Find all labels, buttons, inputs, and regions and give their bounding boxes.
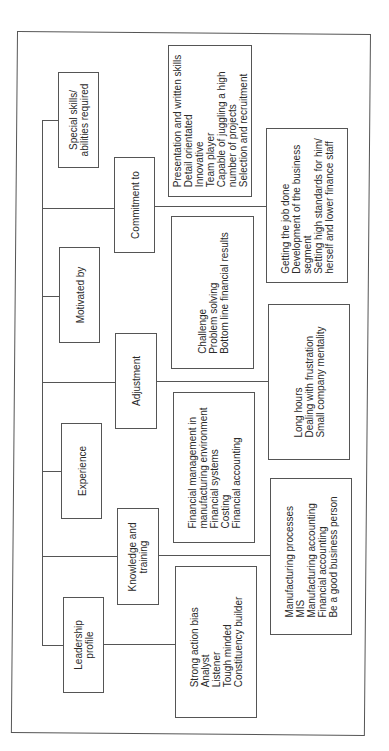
item: Problem solving — [207, 232, 218, 354]
item: Team player — [205, 55, 216, 187]
label-line: Experience — [76, 446, 87, 496]
label-line: abilities required — [79, 84, 90, 157]
item: Setting high standards for him/ — [313, 138, 324, 274]
label-line: Knowledge and — [127, 522, 138, 591]
category-experience: Experience — [61, 423, 102, 519]
label-line: Adjustment — [131, 356, 142, 406]
connector-special — [42, 120, 58, 121]
category-special-skills: Special skills/ abilities required — [58, 72, 99, 168]
item: segment — [302, 138, 313, 274]
items-commitment: Getting the job done Development of the … — [266, 128, 348, 283]
label-line: Leadership — [73, 620, 84, 669]
label-line: training — [138, 522, 149, 591]
item: Costing — [220, 407, 231, 528]
connector-leadership-items — [104, 644, 175, 645]
connector-commitment-items — [155, 206, 266, 207]
items-motivated-by: Challenge Problem solving Bottom line fi… — [171, 216, 254, 369]
item: Innovative — [194, 55, 205, 187]
item: Tough minded — [222, 597, 233, 688]
item: manufacturing environment — [198, 407, 209, 528]
label-line: profile — [84, 620, 95, 669]
item: Financial management in — [187, 407, 198, 528]
items-leadership-profile: Strong action bias Analyst Listener Toug… — [175, 566, 257, 718]
connector-leadership — [42, 645, 63, 646]
connector-experience — [42, 471, 61, 472]
item: Bottom line financial results — [218, 232, 229, 354]
item: Dealing with frustration — [304, 326, 315, 437]
connector-adjustment-items — [157, 381, 268, 382]
label-line: Special skills/ — [68, 84, 79, 157]
items-knowledge-training: Manufacturing processes MIS Manufacturin… — [270, 478, 352, 635]
category-motivated-by: Motivated by — [59, 247, 100, 343]
item: MIS — [295, 496, 306, 617]
item: Detail orientated — [183, 55, 194, 187]
item: herself and lower finance staff — [324, 138, 335, 274]
item: Manufacturing accounting — [306, 496, 317, 617]
item: Financial accounting — [231, 407, 242, 528]
item: Selection and recruitment — [238, 55, 249, 187]
tree-spine — [42, 120, 43, 646]
category-leadership-profile: Leadership profile — [63, 597, 104, 693]
item: Listener — [211, 597, 222, 688]
category-knowledge-training: Knowledge and training — [117, 508, 159, 605]
connector-adjustment — [42, 382, 115, 383]
category-commitment: Commitment to — [114, 157, 155, 253]
item: Manufacturing processes — [284, 496, 295, 617]
item: Long hours — [293, 326, 304, 437]
item: Financial systems — [209, 407, 220, 528]
category-adjustment: Adjustment — [115, 333, 157, 429]
item: Capable of juggling a high — [216, 55, 227, 187]
item: number of projects — [227, 55, 238, 187]
connector-commitment — [42, 208, 114, 209]
item: Challenge — [196, 232, 207, 354]
items-special-skills: Presentation and written skills Detail o… — [168, 45, 252, 197]
item: Presentation and written skills — [172, 55, 183, 187]
connector-knowledge-items — [159, 555, 270, 556]
connector-motivated — [42, 296, 59, 297]
item: Getting the job done — [280, 138, 291, 274]
item: Financial accounting — [317, 496, 328, 617]
item: Development of the business — [291, 138, 302, 274]
items-adjustment: Long hours Dealing with frustration Smal… — [268, 304, 350, 460]
label-line: Commitment to — [129, 171, 140, 239]
item: Be a good business person — [328, 496, 339, 617]
items-experience: Financial management in manufacturing en… — [173, 392, 255, 543]
item: Constituency builder — [233, 597, 244, 688]
item: Small company mentality — [315, 326, 326, 437]
item: Strong action bias — [189, 597, 200, 688]
label-line: Motivated by — [74, 267, 85, 324]
item: Analyst — [200, 597, 211, 688]
connector-knowledge — [42, 556, 117, 557]
